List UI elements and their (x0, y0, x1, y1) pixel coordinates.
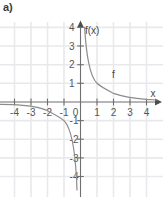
y-tick-label: 3 (69, 41, 75, 52)
y-tick-label: -1 (70, 115, 79, 126)
x-tick-labels: -4 -3 -2 -1 0 1 2 3 4 (10, 107, 150, 118)
x-axis-label: x (151, 88, 156, 99)
curve-annotation-f: f (112, 69, 115, 80)
y-tick-label: -4 (70, 171, 79, 182)
x-tick-label: 1 (94, 107, 100, 118)
coordinate-plot: -4 -3 -2 -1 0 1 2 3 4 4 3 2 1 -1 -2 -3 -… (0, 0, 163, 197)
x-tick-label: 4 (144, 107, 150, 118)
x-tick-label: -3 (27, 107, 36, 118)
y-tick-label: 2 (69, 59, 75, 70)
annotation-label: f (112, 69, 115, 80)
x-tick-label: 2 (111, 107, 117, 118)
y-tick-label: 4 (69, 22, 75, 33)
x-tick-label: -4 (10, 107, 19, 118)
x-tick-label: 3 (127, 107, 133, 118)
y-axis-label: f(x) (85, 25, 99, 36)
y-tick-label: 1 (69, 78, 75, 89)
x-tick-label: -1 (60, 107, 69, 118)
figure-container: a) (0, 0, 163, 197)
